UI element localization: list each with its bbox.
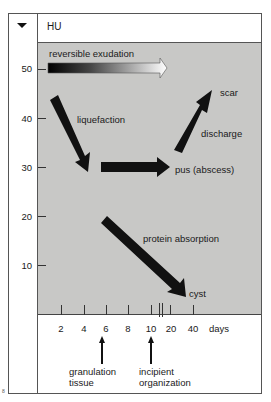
exudation-arrow-icon (48, 58, 167, 78)
discharge-arrow-icon (174, 90, 212, 153)
label-pus: pus (abscess) (175, 164, 234, 175)
label-cyst: cyst (189, 288, 206, 299)
annotation-line: granulation (69, 366, 116, 377)
pus-arrow-icon (101, 157, 170, 177)
label-liquefaction: liquefaction (77, 114, 125, 125)
label-scar: scar (220, 87, 238, 98)
label-reversible-exudation: reversible exudation (49, 48, 134, 59)
granulation-pointer-icon (101, 342, 103, 364)
process-arrows (0, 0, 271, 402)
label-protein-absorption: protein absorption (143, 233, 219, 244)
annotation-line: incipient (139, 366, 191, 377)
annotation-granulation-tissue: granulation tissue (69, 366, 116, 388)
figure-number: 8 (2, 388, 5, 394)
liquefaction-arrow-icon (50, 95, 90, 172)
annotation-incipient-organization: incipient organization (139, 366, 191, 388)
protein-absorption-arrow-icon (101, 216, 186, 297)
organization-pointer-icon (150, 342, 152, 364)
annotation-line: organization (139, 377, 191, 388)
annotation-line: tissue (69, 377, 116, 388)
label-discharge: discharge (201, 128, 242, 139)
